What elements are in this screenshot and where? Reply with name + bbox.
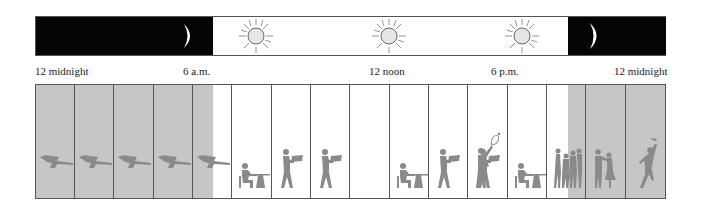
dancing-solo-icon xyxy=(634,136,662,190)
carrying-tray-icon xyxy=(318,148,344,190)
moon-icon xyxy=(584,17,604,55)
sitting-at-table-icon xyxy=(237,162,271,190)
tennis-player-icon xyxy=(473,132,503,190)
moon-icon xyxy=(178,17,198,55)
hour-column xyxy=(75,85,114,198)
time-label-midnight-end: 12 midnight xyxy=(614,65,667,77)
sitting-at-table-icon xyxy=(513,162,547,190)
time-label-6am: 6 a.m. xyxy=(183,65,210,77)
sun-icon xyxy=(369,17,409,55)
hour-column xyxy=(154,85,193,198)
hour-column xyxy=(193,85,232,198)
sleeping-person-icon xyxy=(196,154,232,170)
sitting-at-table-icon xyxy=(395,162,429,190)
sun-icon xyxy=(236,17,276,55)
time-label-noon: 12 noon xyxy=(369,65,405,77)
sleeping-person-icon xyxy=(39,154,75,170)
hour-column xyxy=(36,85,75,198)
sun-icon xyxy=(502,17,542,55)
day-night-bar xyxy=(35,16,666,56)
dancing-couple-icon xyxy=(592,148,618,190)
socializing-group-icon xyxy=(553,148,583,190)
time-label-midnight-start: 12 midnight xyxy=(35,65,88,77)
night-segment-evening xyxy=(568,17,666,55)
sleeping-person-icon xyxy=(157,154,193,170)
hour-column xyxy=(114,85,154,198)
time-label-6pm: 6 p.m. xyxy=(491,65,519,77)
hour-column xyxy=(350,85,390,198)
sleeping-person-icon xyxy=(117,154,153,170)
carrying-tray-icon xyxy=(436,148,462,190)
activity-panel xyxy=(35,84,666,199)
carrying-tray-icon xyxy=(279,148,305,190)
sleeping-person-icon xyxy=(78,154,114,170)
